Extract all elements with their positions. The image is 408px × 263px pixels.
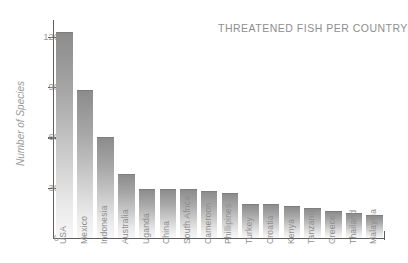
- y-axis-tick-label: 90: [19, 81, 59, 92]
- bar-category-label: Thailand: [348, 210, 358, 244]
- bar-category-label: Greece: [327, 215, 337, 244]
- bar-category-label: Tanzania: [306, 208, 316, 244]
- bar-category-label: Turkey: [244, 217, 254, 244]
- y-axis-tick-label: 30: [19, 182, 59, 193]
- plot-area: USAMexicoIndonesiaAustraliaUgandaChinaSo…: [54, 20, 385, 238]
- bar-category-label: Croatia: [265, 215, 275, 244]
- bar: [56, 32, 73, 238]
- bar-category-label: Cameroon: [203, 203, 213, 244]
- bar-category-label: USA: [58, 226, 68, 244]
- bar-category-label: China: [161, 221, 171, 244]
- y-axis-tick-label: 0: [19, 232, 59, 243]
- y-axis-tick-label: 60: [19, 131, 59, 142]
- bar-category-label: South Africa: [182, 196, 192, 244]
- bar-category-label: Indonesia: [99, 205, 109, 244]
- bar-category-label: Kenya: [286, 219, 296, 244]
- bar-category-label: Uganda: [141, 213, 151, 244]
- y-axis-tick-label: 120: [19, 31, 59, 42]
- bar-category-label: Mexico: [79, 216, 89, 244]
- bar-category-label: Australia: [120, 209, 130, 244]
- bar-category-label: Phillipines: [223, 204, 233, 244]
- bar-category-label: Malaysia: [368, 209, 378, 244]
